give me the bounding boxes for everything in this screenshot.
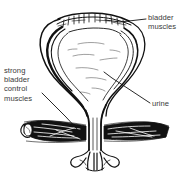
urethra (83, 105, 106, 150)
label-bladder-muscles-line1: bladder (148, 13, 174, 22)
label-bladder-muscles-line2: muscles (148, 22, 176, 31)
bladder-diagram: bladdermuscles strongbladdercontrolmuscl… (0, 0, 196, 179)
pelvic-floor-muscle-band (21, 121, 169, 143)
label-urine-line1: urine (152, 99, 169, 108)
urethral-outlet (71, 150, 120, 171)
bladder-wall (40, 13, 145, 116)
label-strong-line1: strong (4, 66, 25, 75)
label-bladder-muscles: bladdermuscles (148, 13, 176, 31)
label-strong-line4: muscles (4, 94, 32, 103)
label-urine: urine (152, 99, 169, 108)
label-strong-bladder-control-muscles: strongbladdercontrolmuscles (4, 66, 32, 103)
label-strong-line2: bladder (4, 75, 30, 84)
label-strong-line3: control (4, 84, 27, 93)
